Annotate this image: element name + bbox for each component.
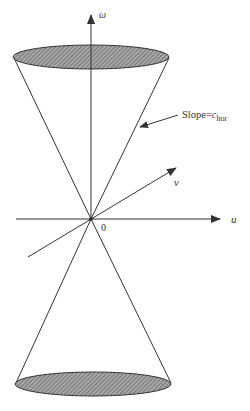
- v-axis-label: v: [174, 177, 179, 188]
- slope-annotation: Slope=chor: [182, 110, 227, 123]
- v-axis: [28, 168, 176, 257]
- upper-cone-right-edge: [91, 58, 169, 219]
- light-cone-figure: ω u v 0 Slope=chor: [0, 0, 250, 411]
- lower-cone-right-edge: [91, 219, 171, 383]
- upper-cone-left-edge: [14, 58, 91, 219]
- lower-cone-left-edge: [16, 219, 91, 383]
- origin-label: 0: [101, 223, 106, 233]
- cone-diagram: [0, 0, 250, 411]
- slope-pointer-arrow: [140, 115, 178, 127]
- lower-cone: [15, 219, 171, 396]
- slope-prefix: Slope=: [182, 109, 212, 120]
- slope-subscript: hor: [217, 114, 228, 123]
- omega-axis-label: ω: [99, 10, 106, 20]
- origin-point: [89, 217, 93, 221]
- u-axis-label: u: [231, 214, 237, 225]
- lower-cone-cap: [15, 372, 171, 396]
